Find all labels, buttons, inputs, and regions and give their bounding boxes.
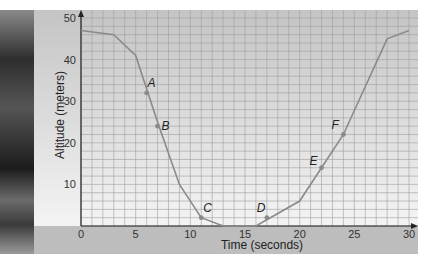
altitude-chart: 0510152025301020304050 ABCDEF Time (seco… (0, 0, 439, 264)
svg-text:10: 10 (64, 178, 76, 190)
svg-text:0: 0 (78, 228, 84, 240)
point-a (144, 90, 149, 95)
point-b (155, 124, 160, 129)
point-label-d: D (257, 201, 266, 215)
svg-text:50: 50 (64, 12, 76, 24)
point-label-a: A (147, 76, 156, 90)
y-axis-title: Altitude (meters) (53, 71, 67, 159)
svg-text:25: 25 (348, 228, 360, 240)
svg-text:5: 5 (133, 228, 139, 240)
point-label-f: F (331, 118, 339, 132)
point-label-c: C (203, 201, 212, 215)
grid (81, 10, 418, 226)
svg-text:30: 30 (403, 228, 415, 240)
point-label-b: B (162, 119, 170, 133)
point-f (341, 132, 346, 137)
point-e (319, 165, 324, 170)
point-d (264, 215, 269, 220)
x-axis-title: Time (seconds) (221, 238, 303, 252)
point-label-e: E (310, 154, 319, 168)
svg-text:10: 10 (184, 228, 196, 240)
svg-text:40: 40 (64, 54, 76, 66)
point-c (199, 215, 204, 220)
